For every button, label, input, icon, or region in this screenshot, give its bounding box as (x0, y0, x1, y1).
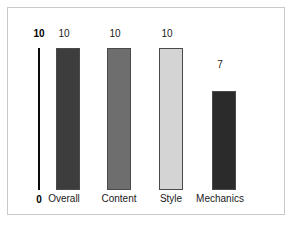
bar-value-style: 10 (137, 29, 197, 39)
bar-value-content: 10 (85, 29, 145, 39)
bar-style (159, 48, 183, 190)
bar-mechanics (212, 91, 236, 190)
chart-screenshot: 10 0 10 Overall 10 Content 10 Style 7 Me… (0, 0, 298, 233)
bar-value-mechanics: 7 (190, 60, 250, 70)
bar-overall (56, 48, 80, 190)
plot-area: 10 0 10 Overall 10 Content 10 Style 7 Me… (8, 8, 286, 216)
chart-frame: 10 0 10 Overall 10 Content 10 Style 7 Me… (7, 7, 285, 215)
bar-content (107, 48, 131, 190)
category-label-mechanics: Mechanics (185, 194, 255, 204)
y-axis-line (38, 48, 40, 190)
